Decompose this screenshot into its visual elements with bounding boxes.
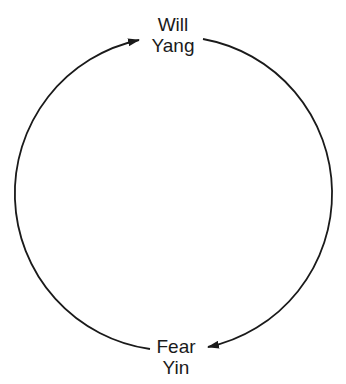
node-label-yin: Yin xyxy=(126,357,226,378)
node-label-fear: Fear xyxy=(126,336,226,357)
right-arc-arrow xyxy=(203,39,332,347)
node-will-yang: Will Yang xyxy=(123,14,223,56)
node-label-will: Will xyxy=(123,14,223,35)
cycle-diagram xyxy=(0,0,346,384)
node-fear-yin: Fear Yin xyxy=(126,336,226,378)
left-arc-arrow xyxy=(15,40,150,349)
node-label-yang: Yang xyxy=(123,35,223,56)
